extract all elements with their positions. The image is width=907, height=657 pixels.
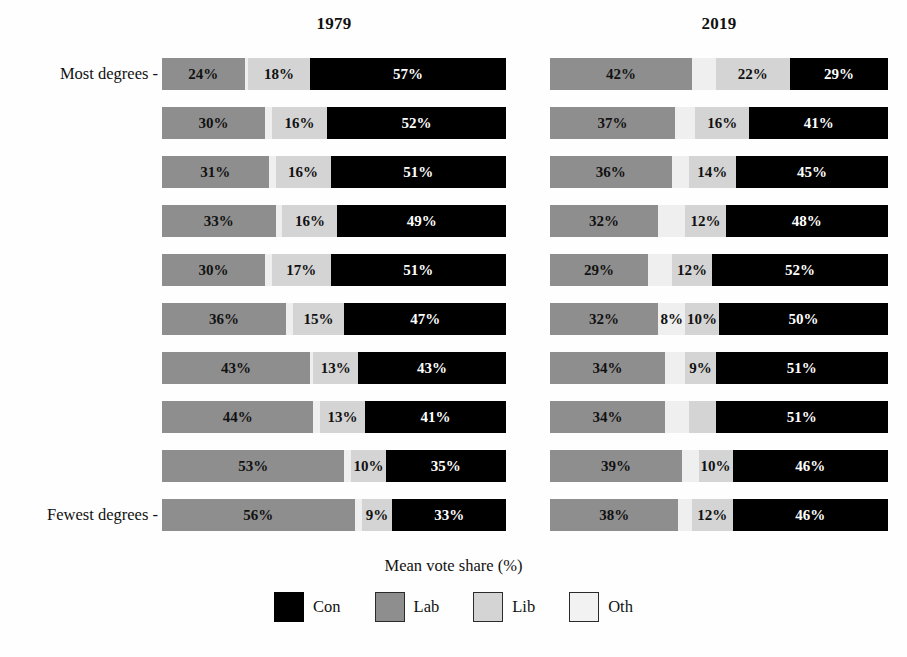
bar-segment-label: 37% — [598, 115, 628, 132]
bar-segment-label: 16% — [707, 115, 737, 132]
legend-swatch-oth-icon — [569, 592, 599, 622]
bar-segment-label: 43% — [417, 360, 447, 377]
bar-row: 33%16%49% — [162, 205, 506, 237]
bar-row: 29%12%52% — [550, 254, 888, 286]
bar-segment-label: 33% — [434, 507, 464, 524]
legend-swatch-lib-icon — [473, 592, 503, 622]
bar-segment-label: 8% — [660, 311, 683, 328]
bar-segment-label: 39% — [601, 458, 631, 475]
bar-segment-con: 46% — [733, 450, 888, 482]
legend-label-oth: Oth — [608, 597, 633, 617]
bar-segment-label: 16% — [295, 213, 325, 230]
bar-segment-label: 34% — [592, 360, 622, 377]
bar-segment-oth — [648, 254, 672, 286]
bar-segment-label: 30% — [199, 262, 229, 279]
bar-segment-lab: 32% — [550, 303, 658, 335]
bar-segment-lib: 13% — [313, 352, 358, 384]
legend-item-oth[interactable]: Oth — [569, 592, 633, 622]
legend-item-con[interactable]: Con — [274, 592, 341, 622]
bar-segment-label: 12% — [677, 262, 707, 279]
bar-segment-con: 29% — [790, 58, 888, 90]
bar-segment-label: 22% — [738, 66, 768, 83]
bar-segment-lib: 12% — [685, 205, 726, 237]
legend-item-lab[interactable]: Lab — [375, 592, 440, 622]
bar-segment-oth — [665, 401, 689, 433]
legend-label-lib: Lib — [512, 597, 535, 617]
bar-segment-label: 53% — [238, 458, 268, 475]
bar-segment-oth — [692, 58, 716, 90]
bar-segment-label: 52% — [402, 115, 432, 132]
x-axis-title: Mean vote share (%) — [0, 556, 907, 576]
bar-segment-lab: 42% — [550, 58, 692, 90]
legend-item-lib[interactable]: Lib — [473, 592, 535, 622]
bar-segment-label: 51% — [787, 409, 817, 426]
bar-segment-con: 52% — [712, 254, 888, 286]
bar-row: 43%13%43% — [162, 352, 506, 384]
bar-segment-oth — [672, 156, 689, 188]
bar-segment-label: 24% — [188, 66, 218, 83]
bar-segment-label: 32% — [589, 213, 619, 230]
bar-segment-lib: 16% — [695, 107, 749, 139]
bar-segment-label: 32% — [589, 311, 619, 328]
bar-segment-label: 31% — [200, 164, 230, 181]
bar-segment-label: 13% — [321, 360, 351, 377]
bar-segment-lab: 29% — [550, 254, 648, 286]
bar-segment-lib: 14% — [689, 156, 736, 188]
bar-row: 37%16%41% — [550, 107, 888, 139]
bar-segment-oth — [269, 156, 276, 188]
bar-segment-lab: 32% — [550, 205, 658, 237]
bar-segment-lab: 44% — [162, 401, 313, 433]
bar-segment-con: 46% — [733, 499, 888, 531]
y-label-most-degrees-text: Most degrees - — [60, 64, 158, 84]
bar-segment-lib: 10% — [699, 450, 733, 482]
bar-row: 56%9%33% — [162, 499, 506, 531]
bar-row: 30%17%51% — [162, 254, 506, 286]
bar-segment-oth — [344, 450, 351, 482]
bar-segment-lib: 9% — [362, 499, 393, 531]
bar-segment-label: 41% — [804, 115, 834, 132]
bar-segment-label: 35% — [431, 458, 461, 475]
bar-segment-label: 43% — [221, 360, 251, 377]
bar-segment-label: 33% — [204, 213, 234, 230]
bar-segment-oth — [682, 450, 699, 482]
bar-segment-con: 33% — [392, 499, 506, 531]
panel-title-1979: 1979 — [162, 14, 506, 34]
bar-row: 36%15%47% — [162, 303, 506, 335]
bar-row: 32%8%10%50% — [550, 303, 888, 335]
bar-segment-lab: 36% — [550, 156, 672, 188]
bar-segment-con: 47% — [344, 303, 506, 335]
bar-segment-lib: 16% — [272, 107, 327, 139]
bar-row: 42%22%29% — [550, 58, 888, 90]
bar-segment-lab: 34% — [550, 352, 665, 384]
bar-segment-label: 18% — [264, 66, 294, 83]
bar-segment-oth — [675, 107, 695, 139]
bar-segment-label: 34% — [592, 409, 622, 426]
bar-row: 39%10%46% — [550, 450, 888, 482]
bar-segment-oth — [665, 352, 685, 384]
bar-segment-lib: 18% — [248, 58, 310, 90]
bar-segment-label: 17% — [286, 262, 316, 279]
bar-segment-label: 44% — [223, 409, 253, 426]
bar-segment-label: 48% — [792, 213, 822, 230]
bar-segment-lib: 13% — [320, 401, 365, 433]
bar-segment-lab: 37% — [550, 107, 675, 139]
bar-segment-label: 47% — [410, 311, 440, 328]
bar-row: 30%16%52% — [162, 107, 506, 139]
bar-segment-con: 51% — [716, 352, 888, 384]
bar-segment-lib: 10% — [351, 450, 385, 482]
bar-segment-oth — [658, 205, 685, 237]
bar-segment-lib: 10% — [685, 303, 719, 335]
bar-row: 32%12%48% — [550, 205, 888, 237]
bar-segment-label: 42% — [606, 66, 636, 83]
bar-segment-label: 41% — [420, 409, 450, 426]
bar-segment-lab: 38% — [550, 499, 678, 531]
bar-segment-label: 10% — [701, 458, 731, 475]
bar-segment-lab: 30% — [162, 254, 265, 286]
bar-segment-lab: 34% — [550, 401, 665, 433]
bar-segment-con: 45% — [736, 156, 888, 188]
bar-segment-label: 30% — [199, 115, 229, 132]
bar-row: 34%9%51% — [550, 352, 888, 384]
bar-segment-label: 51% — [787, 360, 817, 377]
bar-segment-oth — [678, 499, 692, 531]
bar-segment-label: 49% — [407, 213, 437, 230]
